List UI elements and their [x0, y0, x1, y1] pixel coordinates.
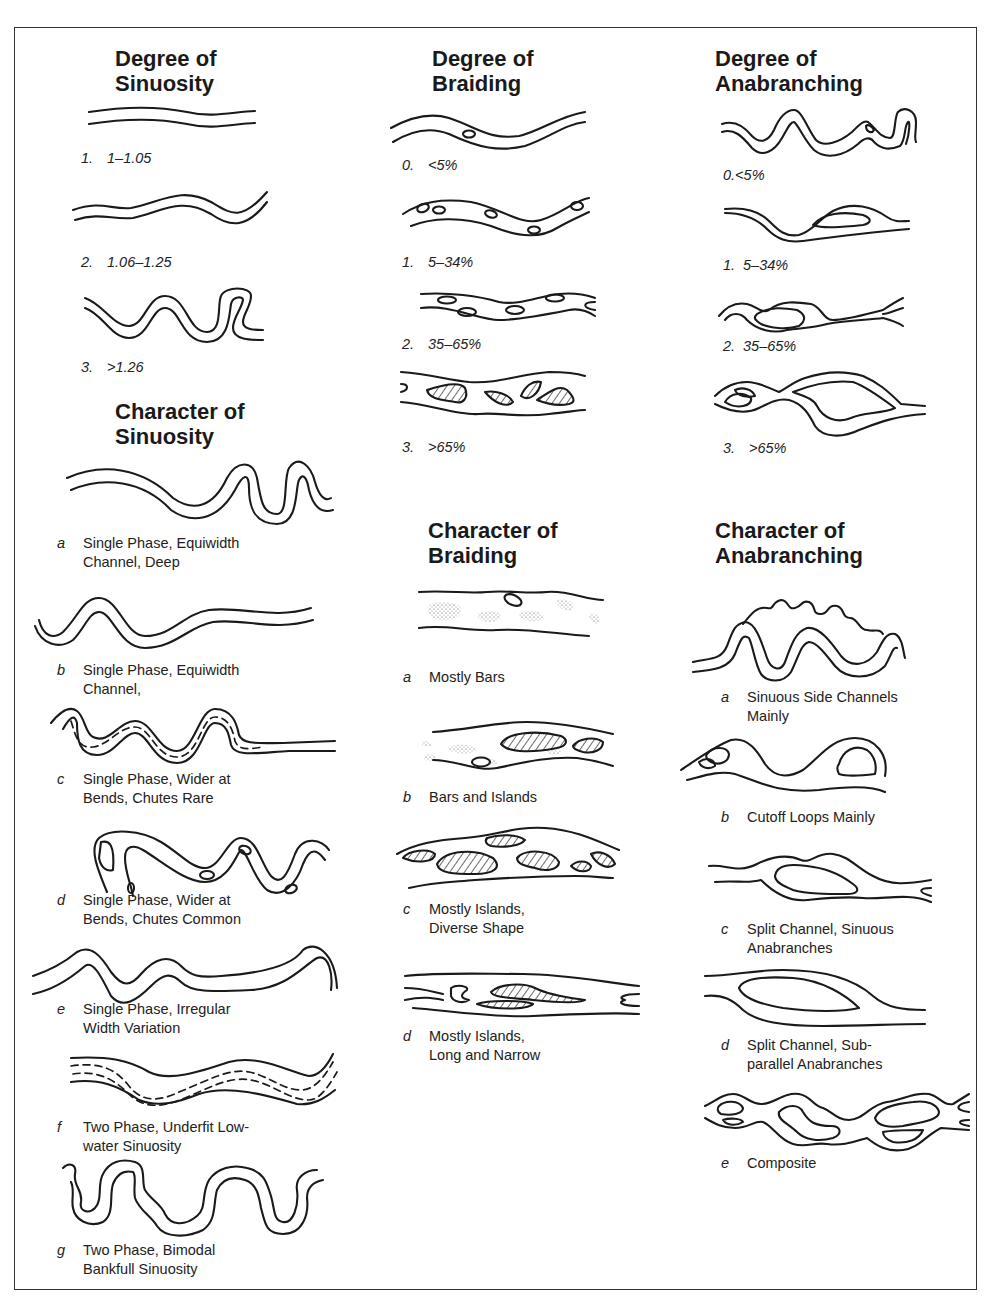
- heading-degree-of-anabranching: Degree of Anabranching: [715, 46, 863, 96]
- diagram-braiding-character-a: [417, 588, 607, 644]
- diagram-anabranching-character-a: [691, 600, 911, 684]
- diagram-braiding-degree-1: [401, 196, 591, 246]
- label-braiding-character-a: aMostly Bars: [403, 668, 505, 687]
- label-sinuosity-character-f: fTwo Phase, Underfit Low- water Sinuosit…: [57, 1118, 249, 1156]
- label-anabranching-character-c: cSplit Channel, Sinuous Anabranches: [721, 920, 894, 958]
- diagram-braiding-degree-3: [399, 370, 589, 420]
- label-braiding-character-c: cMostly Islands, Diverse Shape: [403, 900, 525, 938]
- label-sinuosity-character-b: bSingle Phase, Equiwidth Channel,: [57, 661, 239, 699]
- label-braiding-degree-0: 0.<5%: [402, 156, 457, 175]
- label-anabranching-degree-3: 3.>65%: [723, 439, 787, 458]
- diagram-sinuosity-character-a: [63, 458, 333, 528]
- diagram-braiding-character-c: [395, 824, 625, 894]
- heading-degree-of-sinuosity: Degree of Sinuosity: [115, 46, 216, 96]
- label-anabranching-degree-2: 2.35–65%: [723, 337, 796, 356]
- label-sinuosity-character-e: eSingle Phase, Irregular Width Variation: [57, 1000, 231, 1038]
- label-sinuosity-degree-3: 3.>1.26: [81, 358, 144, 377]
- diagram-sinuosity-degree-3: [83, 286, 273, 346]
- label-sinuosity-degree-1: 1.1–1.05: [81, 149, 151, 168]
- label-braiding-degree-1: 1.5–34%: [402, 253, 473, 272]
- diagram-anabranching-character-e: [703, 1090, 973, 1160]
- label-sinuosity-character-a: aSingle Phase, Equiwidth Channel, Deep: [57, 534, 239, 572]
- diagram-anabranching-character-d: [703, 968, 929, 1032]
- diagram-braiding-degree-0: [389, 108, 589, 152]
- figure-frame: Degree of Sinuosity 1.1–1.05 2.1.06–1.25…: [14, 27, 977, 1290]
- heading-character-of-braiding: Character of Braiding: [428, 518, 558, 568]
- diagram-braiding-character-d: [403, 968, 643, 1024]
- diagram-sinuosity-degree-2: [71, 186, 271, 234]
- label-sinuosity-character-g: gTwo Phase, Bimodal Bankfull Sinuosity: [57, 1241, 215, 1279]
- diagram-anabranching-degree-3: [713, 368, 927, 440]
- label-anabranching-character-e: eComposite: [721, 1154, 816, 1173]
- label-anabranching-character-d: dSplit Channel, Sub- parallel Anabranche…: [721, 1036, 882, 1074]
- label-anabranching-degree-0: 0.<5%: [723, 166, 765, 185]
- label-sinuosity-character-d: dSingle Phase, Wider at Bends, Chutes Co…: [57, 891, 241, 929]
- diagram-anabranching-degree-0: [720, 108, 920, 162]
- label-anabranching-character-b: bCutoff Loops Mainly: [721, 808, 875, 827]
- label-braiding-character-b: bBars and Islands: [403, 788, 537, 807]
- diagram-anabranching-degree-1: [723, 203, 913, 243]
- label-sinuosity-degree-2: 2.1.06–1.25: [81, 253, 172, 272]
- label-braiding-character-d: dMostly Islands, Long and Narrow: [403, 1027, 540, 1065]
- diagram-braiding-degree-2: [419, 290, 599, 330]
- diagram-sinuosity-character-b: [33, 596, 315, 652]
- diagram-sinuosity-character-g: [61, 1156, 331, 1238]
- diagram-sinuosity-degree-1: [87, 106, 257, 132]
- label-braiding-degree-3: 3.>65%: [402, 438, 466, 457]
- label-anabranching-degree-1: 1.5–34%: [723, 256, 788, 275]
- heading-degree-of-braiding: Degree of Braiding: [432, 46, 533, 96]
- diagram-sinuosity-character-f: [69, 1052, 339, 1116]
- heading-character-of-sinuosity: Character of Sinuosity: [115, 399, 245, 449]
- diagram-sinuosity-character-c: [49, 705, 339, 765]
- label-anabranching-character-a: aSinuous Side Channels Mainly: [721, 688, 898, 726]
- label-sinuosity-character-c: cSingle Phase, Wider at Bends, Chutes Ra…: [57, 770, 231, 808]
- diagram-braiding-character-b: [417, 720, 617, 776]
- label-braiding-degree-2: 2.35–65%: [402, 335, 481, 354]
- heading-character-of-anabranching: Character of Anabranching: [715, 518, 863, 568]
- diagram-anabranching-character-b: [679, 736, 899, 800]
- diagram-anabranching-character-c: [707, 850, 937, 912]
- diagram-anabranching-degree-2: [717, 290, 907, 340]
